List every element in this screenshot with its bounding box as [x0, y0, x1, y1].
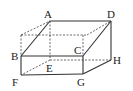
label-F: F [12, 76, 18, 88]
edge-FG [21, 74, 83, 75]
label-D: D [107, 8, 115, 20]
label-A: A [44, 8, 52, 20]
edge-DC [83, 21, 111, 56]
edge-GH [83, 60, 111, 74]
cuboid-diagram: A D B C E F G H [0, 0, 133, 91]
label-H: H [113, 54, 121, 66]
label-B: B [11, 50, 18, 62]
label-G: G [77, 76, 85, 88]
edge-hidden-left-diag [21, 21, 50, 35]
edge-hidden-right-diag [87, 21, 111, 35]
label-C: C [74, 44, 81, 56]
edge-AB [21, 21, 50, 56]
label-E: E [46, 62, 53, 74]
